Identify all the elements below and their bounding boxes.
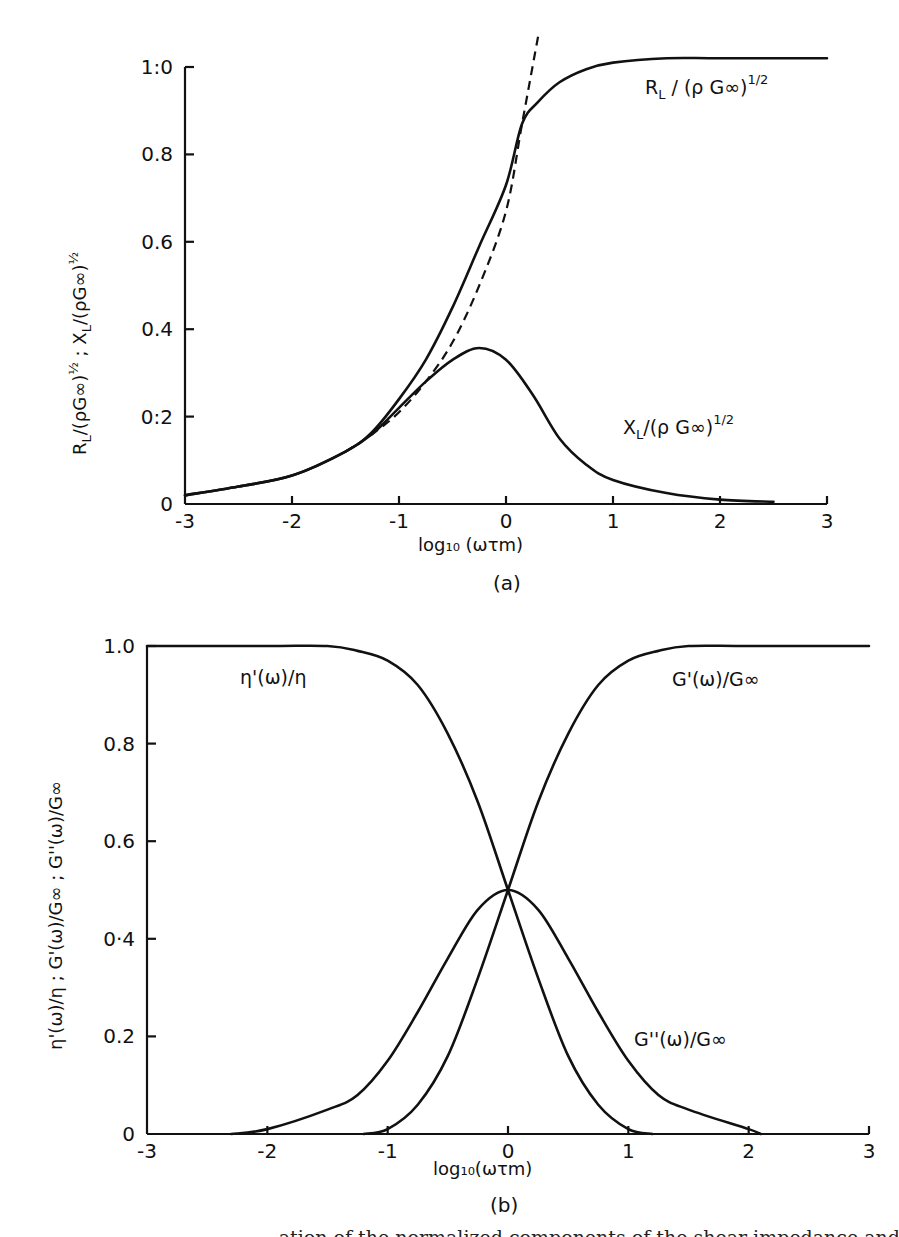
y-tick-label: 0:2 — [141, 405, 173, 429]
x-tick-label: 1 — [607, 509, 620, 533]
panel-a-axes: -3-2-1012300:20.40.60.81:0 — [141, 55, 834, 533]
curve-r-l-g — [185, 58, 827, 495]
x-tick-label: 0 — [500, 509, 513, 533]
x-tick-label: -3 — [137, 1139, 157, 1163]
x-tick-label: 2 — [742, 1139, 755, 1163]
y-tick-label: 0.6 — [103, 829, 135, 853]
figure-canvas: -3-2-1012300:20.40.60.81:0 log₁₀ (ωτm) (… — [0, 0, 899, 1237]
x-tick-label: 2 — [714, 509, 727, 533]
y-tick-label: 0.4 — [141, 317, 173, 341]
x-tick-label: -2 — [282, 509, 302, 533]
x-tick-label: 3 — [821, 509, 834, 533]
y-tick-label: 0.2 — [103, 1024, 135, 1048]
eta-curve-label: η'(ω)/η — [240, 666, 306, 688]
y-tick-label: 0 — [122, 1122, 135, 1146]
panel-a-curves — [185, 36, 827, 501]
panel-a-y-axis-label: RL/(ρG∞)½ ; XL/(ρG∞)½ — [66, 252, 94, 455]
panel-b-y-axis-label: η'(ω)/η ; G'(ω)/G∞ ; G''(ω)/G∞ — [45, 781, 66, 1050]
gdoubleprime-curve-label: G''(ω)/G∞ — [634, 1028, 727, 1050]
panel-a-label: (a) — [493, 571, 521, 595]
y-tick-label: 0 — [160, 492, 173, 516]
panel-b-x-axis-label: log₁₀(ωτm) — [433, 1158, 532, 1179]
panel-b-label: (b) — [490, 1193, 518, 1217]
y-tick-label: 0.6 — [141, 230, 173, 254]
x-tick-label: -1 — [378, 1139, 398, 1163]
panel-a-x-axis-label: log₁₀ (ωτm) — [418, 534, 523, 555]
x-tick-label: -3 — [175, 509, 195, 533]
y-tick-label: 0.8 — [141, 142, 173, 166]
y-tick-label: 1:0 — [141, 55, 173, 79]
y-tick-label: 0.8 — [103, 732, 135, 756]
figure-caption-partial: ation of the normalized components of th… — [60, 1224, 899, 1237]
rl-curve-label: RL / (ρ G∞)1/2 — [645, 72, 768, 102]
curve-low-frequency-asymptote — [346, 36, 539, 451]
x-tick-label: -1 — [389, 509, 409, 533]
gprime-curve-label: G'(ω)/G∞ — [672, 668, 760, 690]
y-tick-label: 0·4 — [103, 927, 135, 951]
y-tick-label: 1.0 — [103, 634, 135, 658]
x-tick-label: -2 — [257, 1139, 277, 1163]
panel-b: -3-2-1012300.20·40.60.81.0 log₁₀(ωτm) (b… — [45, 634, 875, 1217]
svg-text:RL/(ρG∞)½ ; XL/(ρG∞)½: RL/(ρG∞)½ ; XL/(ρG∞)½ — [66, 252, 94, 455]
x-tick-label: 3 — [863, 1139, 876, 1163]
panel-a: -3-2-1012300:20.40.60.81:0 log₁₀ (ωτm) (… — [66, 36, 833, 595]
xl-curve-label: XL/(ρ G∞)1/2 — [623, 412, 734, 442]
panel-b-curves — [147, 646, 869, 1134]
x-tick-label: 1 — [622, 1139, 635, 1163]
